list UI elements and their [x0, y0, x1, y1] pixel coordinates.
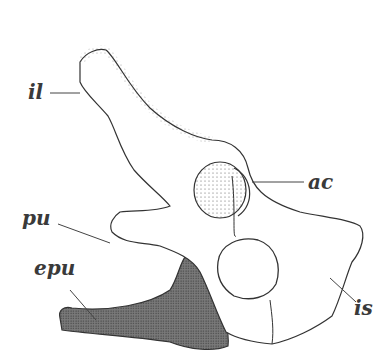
pelvis-diagram: il ac pu epu is: [0, 0, 388, 361]
pu-leader-line: [58, 224, 110, 243]
label-ischium: is: [354, 298, 373, 318]
label-epipubis: epu: [34, 258, 75, 278]
obturator-foramen: [218, 239, 279, 299]
label-pubis: pu: [22, 208, 51, 228]
label-acetabulum: ac: [308, 172, 333, 192]
label-ilium: il: [28, 82, 43, 102]
